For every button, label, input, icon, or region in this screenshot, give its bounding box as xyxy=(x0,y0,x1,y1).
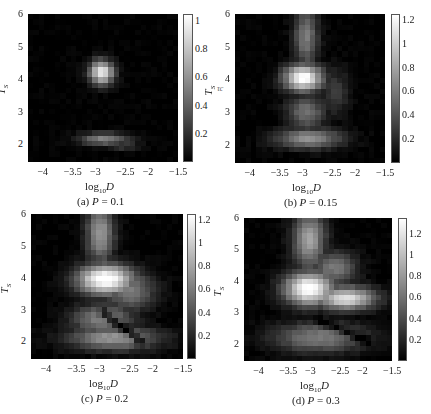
y-tick-label: 3 xyxy=(18,107,23,117)
x-tick-label: −3.5 xyxy=(271,168,289,178)
colorbar-label: τc xyxy=(217,84,223,93)
colorbar-tick-label: 0.2 xyxy=(409,335,422,345)
x-tick-label: −3 xyxy=(94,364,105,374)
x-tick-label: −2.5 xyxy=(116,167,134,177)
colorbar-tick-label: 0.8 xyxy=(409,271,422,281)
y-tick-label: 2 xyxy=(21,336,26,346)
y-axis-label: TS xyxy=(0,85,10,95)
colorbar-tick-label: 0.4 xyxy=(195,101,208,111)
heatmap-canvas xyxy=(31,214,183,359)
colorbar xyxy=(398,218,407,361)
colorbar-tick-label: 1 xyxy=(195,16,200,26)
y-tick-label: 6 xyxy=(225,9,230,19)
x-tick-label: −2 xyxy=(147,364,158,374)
x-tick-label: −2.5 xyxy=(331,366,349,376)
x-axis-label: log10D xyxy=(85,180,114,195)
x-tick-label: −3.5 xyxy=(64,167,82,177)
colorbar-tick-label: 0.4 xyxy=(198,308,211,318)
x-tick-label: −4 xyxy=(244,168,255,178)
colorbar xyxy=(391,14,400,163)
y-tick-label: 6 xyxy=(234,213,239,223)
panel-caption: (a) P = 0.1 xyxy=(77,195,124,207)
colorbar-tick-label: 0.8 xyxy=(402,63,415,73)
colorbar-tick-label: 0.6 xyxy=(402,86,415,96)
heatmap-plot xyxy=(244,218,392,361)
x-tick-label: −2 xyxy=(357,366,368,376)
panel-caption: (c) P = 0.2 xyxy=(81,392,128,404)
x-tick-label: −3.5 xyxy=(279,366,297,376)
x-tick-label: −1.5 xyxy=(174,364,192,374)
x-tick-label: −1.5 xyxy=(376,168,394,178)
x-tick-label: −2 xyxy=(143,167,154,177)
y-tick-label: 3 xyxy=(225,107,230,117)
y-axis-label: TS xyxy=(0,283,13,293)
heatmap-plot xyxy=(28,14,178,162)
x-tick-label: −1.5 xyxy=(169,167,187,177)
y-axis-label: TS xyxy=(211,286,226,296)
x-tick-label: −4 xyxy=(37,167,48,177)
colorbar-tick-label: 1 xyxy=(409,250,414,260)
y-tick-label: 4 xyxy=(18,74,23,84)
x-axis-label: log10D xyxy=(89,377,118,392)
heatmap-plot xyxy=(235,14,385,163)
y-tick-label: 6 xyxy=(18,9,23,19)
y-tick-label: 6 xyxy=(21,209,26,219)
colorbar-tick-label: 0.8 xyxy=(195,44,208,54)
x-tick-label: −4 xyxy=(253,366,264,376)
colorbar-tick-label: 0.4 xyxy=(402,110,415,120)
colorbar-tick-label: 1.2 xyxy=(198,215,211,225)
colorbar xyxy=(183,14,193,162)
x-tick-label: −3 xyxy=(90,167,101,177)
colorbar-tick-label: 0.2 xyxy=(195,129,208,139)
x-axis-label: log10D xyxy=(292,181,321,196)
y-tick-label: 4 xyxy=(234,276,239,286)
colorbar-tick-label: 0.8 xyxy=(198,261,211,271)
y-tick-label: 2 xyxy=(234,339,239,349)
x-tick-label: −3.5 xyxy=(67,364,85,374)
y-axis-label: TS xyxy=(202,85,217,95)
colorbar-tick-label: 0.6 xyxy=(198,284,211,294)
y-tick-label: 4 xyxy=(21,273,26,283)
x-tick-label: −2.5 xyxy=(323,168,341,178)
colorbar-tick-label: 1.2 xyxy=(402,15,415,25)
y-tick-label: 5 xyxy=(225,42,230,52)
x-tick-label: −2.5 xyxy=(121,364,139,374)
x-axis-label: log10D xyxy=(300,379,329,394)
colorbar-tick-label: 1.2 xyxy=(409,229,422,239)
heatmap-plot xyxy=(31,214,183,359)
colorbar xyxy=(187,214,196,359)
colorbar-tick-label: 0.2 xyxy=(402,134,415,144)
panel-caption: (b) P = 0.15 xyxy=(284,196,337,208)
colorbar-tick-label: 1 xyxy=(198,238,203,248)
colorbar-tick-label: 0.6 xyxy=(195,72,208,82)
y-tick-label: 5 xyxy=(18,42,23,52)
heatmap-canvas xyxy=(235,14,385,163)
y-tick-label: 4 xyxy=(225,74,230,84)
heatmap-canvas xyxy=(244,218,392,361)
y-tick-label: 3 xyxy=(21,305,26,315)
x-tick-label: −3 xyxy=(305,366,316,376)
y-tick-label: 2 xyxy=(18,139,23,149)
x-tick-label: −1.5 xyxy=(383,366,401,376)
heatmap-canvas xyxy=(28,14,178,162)
x-tick-label: −2 xyxy=(350,168,361,178)
colorbar-tick-label: 1 xyxy=(402,39,407,49)
y-tick-label: 5 xyxy=(21,241,26,251)
y-tick-label: 3 xyxy=(234,307,239,317)
y-tick-label: 5 xyxy=(234,244,239,254)
x-tick-label: −3 xyxy=(297,168,308,178)
colorbar-tick-label: 0.2 xyxy=(198,331,211,341)
y-tick-label: 2 xyxy=(225,140,230,150)
colorbar-tick-label: 0.4 xyxy=(409,314,422,324)
panel-caption: (d) P = 0.3 xyxy=(292,394,340,406)
colorbar-tick-label: 0.6 xyxy=(409,292,422,302)
x-tick-label: −4 xyxy=(41,364,52,374)
